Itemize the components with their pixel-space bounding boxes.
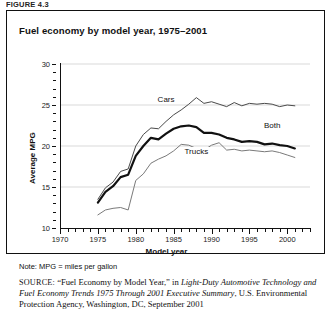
x-axis-tick (143, 229, 144, 232)
y-axis-tick (53, 154, 56, 155)
x-axis-tick (121, 229, 122, 232)
x-axis-tick (212, 229, 213, 234)
source-in-word: in (172, 277, 179, 287)
x-axis-tick (257, 229, 258, 232)
x-axis-tick (68, 229, 69, 232)
y-axis-line (60, 63, 61, 229)
y-axis-title: Average MPG (28, 132, 37, 184)
x-axis-tick-label: 2000 (279, 235, 296, 244)
x-axis-tick (295, 229, 296, 232)
y-axis-tick (53, 179, 56, 180)
y-axis-tick (53, 121, 56, 122)
x-axis-tick (113, 229, 114, 232)
y-axis-tick (53, 203, 56, 204)
x-axis-tick-label: 1970 (52, 235, 69, 244)
y-axis-tick (53, 138, 56, 139)
x-axis-tick (287, 229, 288, 234)
x-axis-tick (272, 229, 273, 232)
x-axis-tick (136, 229, 137, 234)
y-axis-tick (53, 80, 56, 81)
x-axis-tick (219, 229, 220, 232)
x-axis-tick-label: 1990 (203, 235, 220, 244)
x-axis-tick-label: 1980 (127, 235, 144, 244)
y-axis-tick (52, 64, 56, 65)
series-line-both (98, 126, 295, 203)
y-axis-tick (53, 89, 56, 90)
x-axis-tick-label: 1975 (90, 235, 107, 244)
x-axis-tick (174, 229, 175, 234)
x-axis-tick (128, 229, 129, 232)
x-axis-tick (151, 229, 152, 232)
y-axis-tick (52, 146, 56, 147)
x-axis-tick (196, 229, 197, 232)
x-axis-tick (181, 229, 182, 232)
y-axis-tick (53, 113, 56, 114)
y-axis-tick (52, 187, 56, 188)
plot-area: CarsBothTrucks (60, 64, 310, 228)
y-axis-tick (53, 162, 56, 163)
y-axis-tick (53, 220, 56, 221)
x-axis-tick (310, 229, 311, 232)
y-axis-tick (53, 97, 56, 98)
x-axis-tick (227, 229, 228, 232)
y-axis-tick (52, 105, 56, 106)
figure-panel: FIGURE 4.3 Fuel economy by model year, 1… (0, 0, 333, 336)
x-axis-title: Model year (0, 247, 333, 256)
x-axis-tick (242, 229, 243, 232)
x-axis-tick (105, 229, 106, 232)
x-axis-tick (75, 229, 76, 232)
x-axis-tick (60, 229, 61, 234)
x-axis-tick (189, 229, 190, 232)
source-prefix: SOURCE: (19, 278, 55, 287)
x-axis-tick-label: 1985 (165, 235, 182, 244)
x-axis-tick (98, 229, 99, 234)
series-label-both: Both (263, 121, 281, 130)
x-axis-tick (234, 229, 235, 232)
y-axis-tick-label: 10 (26, 224, 50, 233)
x-axis-tick (302, 229, 303, 232)
chart-title: Fuel economy by model year, 1975–2001 (19, 25, 207, 36)
x-axis-tick (204, 229, 205, 232)
y-axis-tick (53, 212, 56, 213)
y-axis-tick (53, 195, 56, 196)
x-axis-tick (90, 229, 91, 232)
y-axis-tick (53, 72, 56, 73)
series-label-trucks: Trucks (184, 147, 210, 156)
x-axis-tick-label: 1995 (241, 235, 258, 244)
y-axis-tick (53, 171, 56, 172)
x-axis-tick (158, 229, 159, 232)
figure-label: FIGURE 4.3 (6, 0, 49, 7)
source-quoted-title: “Fuel Economy by Model Year,” (57, 277, 170, 287)
x-axis-tick (280, 229, 281, 232)
chart-source: SOURCE: “Fuel Economy by Model Year,” in… (19, 277, 319, 311)
x-axis-tick (83, 229, 84, 232)
x-axis-tick (265, 229, 266, 232)
x-axis-tick (249, 229, 250, 234)
x-axis-tick (166, 229, 167, 232)
y-axis-tick (52, 228, 56, 229)
x-axis-tick-labels: 1970197519801985199019952000 (60, 235, 311, 246)
y-axis-tick-label: 30 (26, 60, 50, 69)
chart-note: Note: MPG = miles per gallon (19, 262, 117, 271)
y-axis-tick-label: 25 (26, 101, 50, 110)
series-label-cars: Cars (157, 95, 176, 104)
y-axis-tick (53, 130, 56, 131)
